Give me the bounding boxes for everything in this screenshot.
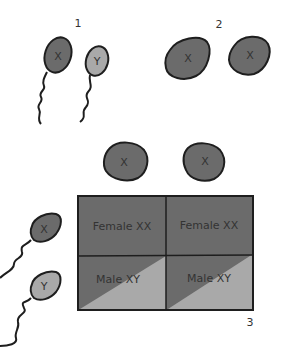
sex-determination-diagram: 1 X Y 2 X X X X <box>0 0 281 361</box>
svg-text:Female XX: Female XX <box>180 219 239 232</box>
sperm-y-icon: Y <box>0 272 61 346</box>
punnett-grid-horizontal-divider <box>78 255 253 256</box>
egg-chromosome-label: X <box>120 156 128 169</box>
punnett-cell-female-2: Female XX <box>166 196 253 256</box>
egg-chromosome-label: X <box>246 49 254 62</box>
egg-x-icon: X <box>104 143 147 181</box>
egg-chromosome-label: X <box>201 155 209 168</box>
punnett-cell-male-2: Male XY <box>166 254 253 310</box>
sperm-chromosome-label: Y <box>40 280 48 293</box>
sperm-chromosome-label: X <box>40 223 48 236</box>
svg-text:Male XY: Male XY <box>187 272 231 285</box>
egg-chromosome-label: X <box>184 52 192 65</box>
punnett-cell-female-1: Female XX <box>78 196 166 256</box>
sperm-chromosome-label: Y <box>93 55 101 68</box>
panel-3-punnett-square: X X X Y Female XX Female XX M <box>0 143 254 346</box>
sperm-x-icon: X <box>38 34 76 124</box>
egg-x-icon: X <box>165 38 209 79</box>
svg-text:Female XX: Female XX <box>93 220 152 233</box>
sperm-x-icon: X <box>0 214 61 278</box>
panel-number-1: 1 <box>75 17 82 30</box>
egg-x-icon: X <box>229 37 270 75</box>
punnett-cell-male-1: Male XY <box>78 256 166 310</box>
panel-1-sperm: 1 X Y <box>38 17 111 124</box>
panel-number-3: 3 <box>247 316 254 329</box>
sperm-chromosome-label: X <box>54 50 62 63</box>
panel-number-2: 2 <box>216 18 223 31</box>
svg-text:Male XY: Male XY <box>96 273 140 286</box>
panel-2-eggs: 2 X X <box>165 18 269 79</box>
sperm-y-icon: Y <box>80 44 112 122</box>
egg-x-icon: X <box>184 143 225 180</box>
